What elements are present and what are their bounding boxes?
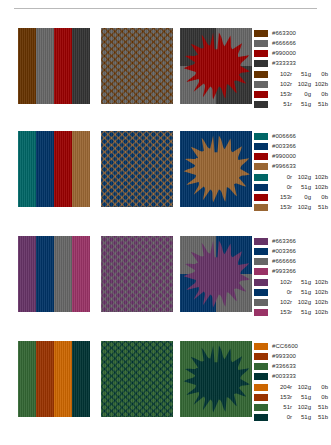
b-value: 0b — [311, 384, 328, 391]
color-swatch — [254, 258, 268, 265]
color-swatch — [254, 153, 268, 160]
dot-grid — [101, 28, 173, 104]
rgb-values: 153r 51g 0b — [272, 394, 328, 401]
color-swatch — [254, 30, 268, 37]
color-swatch — [254, 40, 268, 47]
stripe-band — [36, 131, 54, 207]
legend-row: 153r 0g 0b — [254, 193, 328, 202]
r-value: 0r — [272, 184, 292, 191]
b-value: 0b — [311, 194, 328, 201]
stripe-band — [36, 28, 54, 104]
hex-label: #003366 — [272, 143, 296, 150]
b-value: 51b — [311, 404, 328, 411]
legend-row: 0r 51g 51b — [254, 413, 328, 422]
g-value: 102g — [292, 299, 311, 306]
hex-label: #006666 — [272, 133, 296, 140]
stripes-panel — [18, 341, 90, 417]
sun-composition — [180, 28, 252, 104]
b-value: 102b — [311, 174, 328, 181]
color-swatch — [254, 163, 268, 170]
legend-row: #990000 — [254, 49, 328, 58]
g-value: 102g — [292, 81, 311, 88]
stripe-group — [18, 236, 90, 312]
hex-label: #333333 — [272, 60, 296, 67]
r-value: 102r — [272, 81, 292, 88]
sun-composition — [180, 236, 252, 312]
palette-sheet: #663300 #666666 #990000 #333333 — [0, 0, 331, 445]
legend-row: 102r 102g 102b — [254, 298, 328, 307]
legend-row: 153r 0g 0b — [254, 90, 328, 99]
r-value: 0r — [272, 289, 292, 296]
b-value: 102b — [311, 309, 328, 316]
color-swatch — [254, 204, 268, 211]
legend-row: 51r 102g 51b — [254, 403, 328, 412]
rgb-legend-block: 102r 51g 102b 0r 51g 102b — [254, 278, 328, 318]
rgb-values: 102r 51g 102b — [272, 279, 328, 286]
r-value: 102r — [272, 279, 292, 286]
legend-row: #336633 — [254, 362, 328, 371]
hex-label: #666666 — [272, 40, 296, 47]
legend-row: #003366 — [254, 247, 328, 256]
hex-legend-block: #006666 #003366 #990000 #996633 — [254, 132, 328, 172]
legend-row: #663366 — [254, 237, 328, 246]
stripes-panel — [18, 236, 90, 312]
stripe-band — [72, 131, 90, 207]
dots-panel — [101, 341, 173, 417]
stripe-band — [72, 28, 90, 104]
legend-row: 102r 51g 0b — [254, 70, 328, 79]
r-value: 51r — [272, 101, 292, 108]
r-value: 153r — [272, 394, 292, 401]
stripe-band — [18, 28, 36, 104]
rgb-values: 0r 51g 102b — [272, 289, 328, 296]
color-swatch — [254, 50, 268, 57]
hex-label: #993300 — [272, 353, 296, 360]
b-value: 0b — [311, 91, 328, 98]
sun-icon — [180, 236, 252, 312]
g-value: 0g — [292, 194, 311, 201]
color-swatch — [254, 299, 268, 306]
hex-label: #663300 — [272, 30, 296, 37]
g-value: 51g — [292, 184, 311, 191]
b-value: 51b — [311, 101, 328, 108]
palette-row: #663366 #003366 #666666 #993366 — [0, 236, 331, 316]
rgb-values: 153r 102g 51b — [272, 204, 328, 211]
stripe-band — [18, 341, 36, 417]
rgb-values: 102r 51g 0b — [272, 71, 328, 78]
stripe-group — [18, 28, 90, 104]
g-value: 102g — [292, 174, 311, 181]
stripe-band — [54, 236, 72, 312]
color-swatch — [254, 394, 268, 401]
hex-legend-block: #CC6600 #993300 #336633 #003333 — [254, 342, 328, 382]
r-value: 51r — [272, 404, 292, 411]
hex-label: #996633 — [272, 163, 296, 170]
b-value: 102b — [311, 81, 328, 88]
r-value: 153r — [272, 91, 292, 98]
sun-panel — [180, 236, 252, 312]
legend-row: #996633 — [254, 162, 328, 171]
sun-panel — [180, 131, 252, 207]
r-value: 153r — [272, 194, 292, 201]
stripes-panel — [18, 28, 90, 104]
legend-row: #993300 — [254, 352, 328, 361]
color-swatch — [254, 81, 268, 88]
legend-row: #993366 — [254, 267, 328, 276]
rgb-values: 0r 51g 51b — [272, 414, 328, 421]
sun-icon — [180, 341, 252, 417]
dot-grid — [101, 341, 173, 417]
color-swatch — [254, 194, 268, 201]
hex-label: #336633 — [272, 363, 296, 370]
b-value: 102b — [311, 299, 328, 306]
legend-row: #666666 — [254, 39, 328, 48]
dot-grid — [101, 131, 173, 207]
legend-row: #006666 — [254, 132, 328, 141]
palette-row: #663300 #666666 #990000 #333333 — [0, 28, 331, 108]
color-swatch — [254, 384, 268, 391]
rgb-values: 153r 0g 0b — [272, 194, 328, 201]
g-value: 51g — [292, 101, 311, 108]
stripe-band — [54, 131, 72, 207]
legend-row: #663300 — [254, 29, 328, 38]
legend-row: #990000 — [254, 152, 328, 161]
rgb-values: 153r 51g 102b — [272, 309, 328, 316]
g-value: 102g — [292, 384, 311, 391]
color-swatch — [254, 279, 268, 286]
